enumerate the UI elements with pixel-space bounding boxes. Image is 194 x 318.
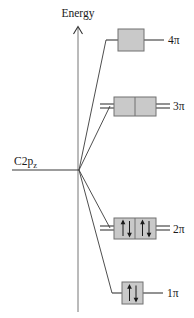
level-label-2pi-symbol: π [179,223,185,235]
source-orbital-label: C2pz [14,155,37,170]
connector-to-2pi [79,170,110,228]
level-label-1pi: 1π [167,287,179,299]
connector-to-1pi [79,170,112,293]
energy-level-4pi: 4π [106,29,180,51]
level-label-3pi: 3π [173,100,185,112]
level-label-4pi-symbol: π [174,34,180,46]
orbital-box-4pi-cell-1 [118,29,144,51]
source-orbital-label-subscript: z [33,160,37,170]
level-label-1pi-symbol: π [173,287,179,299]
mo-energy-diagram: Energy C2pz 4π 3π [0,0,194,318]
orbital-box-1pi-cell-1 [122,282,143,304]
level-label-4pi: 4π [168,34,180,46]
energy-level-1pi: 1π [112,282,179,304]
level-label-3pi-symbol: π [179,100,185,112]
energy-level-3pi: 3π [100,97,185,116]
connector-to-4pi [79,40,106,170]
connector-to-3pi [79,106,110,170]
energy-level-2pi: 2π [100,218,185,239]
energy-axis-label: Energy [61,7,94,20]
level-label-2pi: 2π [173,223,185,235]
mo-diagram-canvas: Energy C2pz 4π 3π [0,0,194,318]
source-orbital-label-main: C2p [14,155,33,168]
